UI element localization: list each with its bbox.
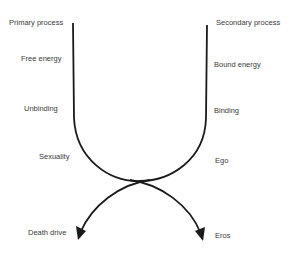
- label-secondary-process: Secondary process: [216, 19, 280, 27]
- label-bound-energy: Bound energy: [214, 61, 261, 69]
- u-curve-crossing-arrows: [0, 0, 299, 254]
- arrow-to-eros: [130, 180, 201, 234]
- arrowhead-eros: [195, 227, 205, 241]
- label-free-energy: Free energy: [21, 55, 61, 63]
- label-primary-process: Primary process: [9, 19, 63, 27]
- u-curve: [73, 23, 207, 181]
- label-unbinding: Unbinding: [24, 105, 58, 113]
- label-binding: Binding: [214, 107, 239, 115]
- arrowhead-death-drive: [76, 226, 86, 240]
- arrow-to-death-drive: [80, 180, 150, 233]
- label-eros: Eros: [215, 232, 230, 240]
- label-ego: Ego: [215, 157, 228, 165]
- label-death-drive: Death drive: [28, 229, 66, 237]
- label-sexuality: Sexuality: [39, 153, 69, 161]
